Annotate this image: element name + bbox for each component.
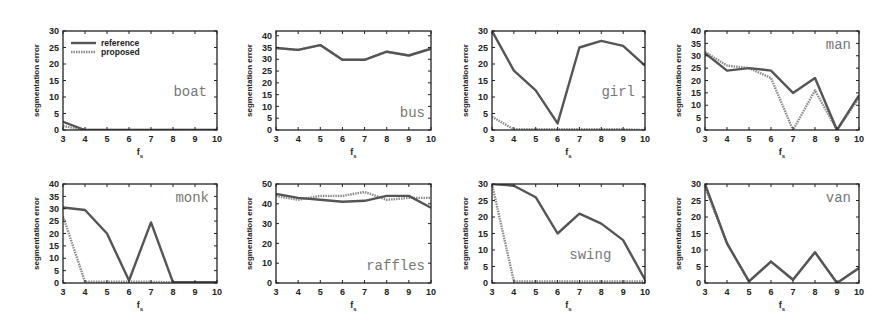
- y-tick-label: 25: [478, 43, 488, 53]
- y-tick-label: 10: [49, 92, 59, 102]
- y-axis-label: segmentation error: [674, 44, 683, 117]
- x-tick-label: 8: [599, 134, 604, 144]
- series-proposed-line: [492, 184, 645, 281]
- x-tick-label: 5: [318, 134, 323, 144]
- x-tick-label: 3: [489, 134, 494, 144]
- x-tick-label: 8: [170, 287, 175, 297]
- y-tick-label: 25: [49, 216, 59, 226]
- x-tick-label: 4: [82, 287, 87, 297]
- x-tick-label: 4: [296, 134, 301, 144]
- y-tick-label: 40: [691, 26, 701, 36]
- x-tick-label: 10: [640, 134, 650, 144]
- x-tick-label: 10: [854, 134, 864, 144]
- plot-frame: [63, 31, 217, 130]
- panel-title-bus: bus: [400, 105, 425, 121]
- y-tick-label: 15: [49, 76, 59, 86]
- chart-monk: 3456789100510152025303540fssegmentation …: [32, 179, 222, 311]
- y-axis-label: segmentation error: [674, 197, 683, 270]
- y-tick-label: 5: [696, 262, 701, 272]
- x-tick-label: 8: [384, 134, 389, 144]
- x-tick-label: 4: [82, 134, 87, 144]
- x-tick-label: 10: [212, 134, 222, 144]
- x-tick-label: 5: [746, 287, 751, 297]
- y-tick-label: 15: [478, 76, 488, 86]
- series-reference-line: [276, 194, 431, 208]
- x-axis-label: fs: [137, 300, 144, 312]
- y-tick-label: 50: [262, 179, 272, 189]
- y-tick-label: 35: [49, 192, 59, 202]
- x-tick-label: 8: [170, 134, 175, 144]
- y-tick-label: 15: [478, 229, 488, 239]
- x-tick-label: 3: [702, 134, 707, 144]
- y-tick-label: 0: [483, 125, 488, 135]
- x-tick-label: 7: [362, 134, 367, 144]
- chart-raffles: 34567891001020304050fssegmentation error…: [245, 179, 436, 311]
- x-tick-label: 4: [511, 287, 516, 297]
- x-tick-label: 3: [489, 287, 494, 297]
- y-tick-label: 15: [49, 241, 59, 251]
- x-tick-label: 3: [60, 134, 65, 144]
- panel-title-van: van: [826, 190, 851, 206]
- x-axis-label: fs: [350, 147, 357, 159]
- y-tick-label: 30: [691, 51, 701, 61]
- y-tick-label: 25: [262, 66, 272, 76]
- y-tick-label: 10: [478, 92, 488, 102]
- series-proposed-line: [276, 45, 431, 60]
- x-tick-label: 8: [599, 287, 604, 297]
- y-tick-label: 30: [49, 26, 59, 36]
- y-tick-label: 25: [691, 63, 701, 73]
- series-proposed-line: [492, 117, 645, 130]
- y-tick-label: 10: [478, 245, 488, 255]
- y-tick-label: 40: [262, 199, 272, 209]
- x-tick-label: 6: [126, 134, 131, 144]
- panel-title-girl: girl: [601, 84, 635, 100]
- x-tick-label: 6: [340, 134, 345, 144]
- x-axis-label: fs: [779, 147, 786, 159]
- x-tick-label: 3: [60, 287, 65, 297]
- x-tick-label: 8: [812, 134, 817, 144]
- chart-man: 3456789100510152025303540fssegmentation …: [674, 26, 864, 158]
- y-tick-label: 0: [696, 125, 701, 135]
- x-tick-label: 7: [362, 287, 367, 297]
- charts-canvas: 345678910051015202530fssegmentation erro…: [0, 0, 883, 325]
- legend: referenceproposed: [71, 38, 140, 57]
- x-tick-label: 9: [192, 287, 197, 297]
- x-tick-label: 6: [555, 134, 560, 144]
- y-tick-label: 30: [262, 54, 272, 64]
- x-tick-label: 10: [426, 134, 436, 144]
- chart-bus: 3456789100510152025303540fssegmentation …: [245, 31, 436, 159]
- y-tick-label: 30: [49, 204, 59, 214]
- y-tick-label: 5: [54, 266, 59, 276]
- y-tick-label: 10: [49, 253, 59, 263]
- x-tick-label: 9: [192, 134, 197, 144]
- x-axis-label: fs: [565, 300, 572, 312]
- y-axis-label: segmentation error: [245, 197, 254, 270]
- y-tick-label: 40: [262, 31, 272, 41]
- y-tick-label: 10: [262, 258, 272, 268]
- y-tick-label: 20: [691, 212, 701, 222]
- x-axis-label: fs: [350, 300, 357, 312]
- y-tick-label: 20: [478, 212, 488, 222]
- x-tick-label: 8: [384, 287, 389, 297]
- y-tick-label: 15: [691, 229, 701, 239]
- y-tick-label: 0: [54, 278, 59, 288]
- series-reference-line: [63, 208, 217, 283]
- y-tick-label: 5: [483, 262, 488, 272]
- y-tick-label: 30: [262, 219, 272, 229]
- chart-van: 345678910051015202530fssegmentation erro…: [674, 179, 864, 311]
- y-axis-label: segmentation error: [461, 44, 470, 117]
- x-tick-label: 6: [768, 134, 773, 144]
- y-tick-label: 5: [54, 109, 59, 119]
- y-tick-label: 15: [691, 88, 701, 98]
- x-tick-label: 10: [212, 287, 222, 297]
- x-tick-label: 7: [148, 287, 153, 297]
- series-reference-line: [276, 45, 431, 60]
- y-tick-label: 35: [691, 39, 701, 49]
- x-tick-label: 7: [577, 287, 582, 297]
- x-tick-label: 9: [621, 287, 626, 297]
- y-tick-label: 5: [696, 113, 701, 123]
- y-tick-label: 30: [478, 26, 488, 36]
- x-tick-label: 10: [854, 287, 864, 297]
- y-tick-label: 30: [691, 179, 701, 189]
- x-tick-label: 10: [426, 287, 436, 297]
